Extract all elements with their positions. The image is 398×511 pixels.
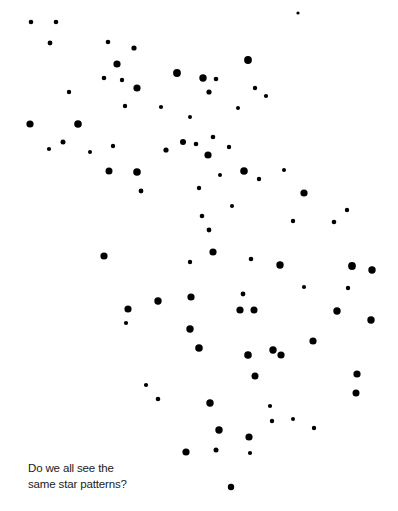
star-point xyxy=(277,351,284,358)
star-point xyxy=(131,45,136,50)
star-point xyxy=(106,168,113,175)
star-point xyxy=(312,426,316,430)
star-point xyxy=(154,297,161,304)
star-point xyxy=(214,448,219,453)
star-point xyxy=(270,419,274,423)
star-point xyxy=(88,150,92,154)
star-point xyxy=(215,426,222,433)
star-point xyxy=(211,135,216,140)
star-point xyxy=(173,69,181,77)
star-point xyxy=(296,11,299,14)
star-point xyxy=(333,307,340,314)
star-point xyxy=(124,305,131,312)
star-point xyxy=(367,316,374,323)
star-point xyxy=(269,346,276,353)
star-point xyxy=(291,417,295,421)
star-point xyxy=(47,147,51,151)
star-point xyxy=(206,399,213,406)
star-point xyxy=(353,390,360,397)
star-point xyxy=(244,351,252,359)
star-point xyxy=(251,307,258,314)
star-point xyxy=(113,60,120,67)
star-point xyxy=(276,261,283,268)
star-point xyxy=(187,293,194,300)
star-point xyxy=(102,76,107,81)
star-point xyxy=(120,78,124,82)
star-point xyxy=(204,151,211,158)
star-point xyxy=(248,451,252,455)
star-point xyxy=(156,397,161,402)
star-point xyxy=(253,86,257,90)
figure-caption: Do we all see the same star patterns? xyxy=(28,461,208,492)
star-point xyxy=(200,214,205,219)
star-point xyxy=(346,286,350,290)
star-point xyxy=(163,147,168,152)
star-point xyxy=(54,20,59,25)
star-point xyxy=(300,189,307,196)
star-point xyxy=(302,285,306,289)
star-point xyxy=(26,120,33,127)
star-point xyxy=(268,404,272,408)
star-point xyxy=(67,90,71,94)
star-point xyxy=(139,189,144,194)
star-point xyxy=(197,186,201,190)
star-point xyxy=(180,139,186,145)
star-point xyxy=(182,448,189,455)
star-point xyxy=(241,292,246,297)
star-point xyxy=(124,321,128,325)
star-point xyxy=(214,77,219,82)
star-point xyxy=(309,337,316,344)
star-point xyxy=(194,142,199,147)
star-point xyxy=(207,228,212,233)
star-point xyxy=(48,41,53,46)
star-point xyxy=(257,177,261,181)
star-point xyxy=(195,344,203,352)
star-point xyxy=(228,484,234,490)
star-point xyxy=(240,167,248,175)
star-point xyxy=(159,105,163,109)
star-point xyxy=(123,104,127,108)
star-point xyxy=(144,383,148,387)
star-point xyxy=(244,56,252,64)
star-point xyxy=(332,220,337,225)
star-point xyxy=(227,145,231,149)
star-point xyxy=(188,115,192,119)
star-point xyxy=(264,94,268,98)
star-point xyxy=(230,204,234,208)
star-point xyxy=(218,173,222,177)
star-point xyxy=(252,373,259,380)
star-point xyxy=(249,257,254,262)
star-point xyxy=(74,120,82,128)
star-point xyxy=(368,266,375,273)
star-point xyxy=(209,248,216,255)
star-point xyxy=(186,325,193,332)
star-point xyxy=(133,168,141,176)
star-point xyxy=(199,74,206,81)
star-point xyxy=(29,20,34,25)
star-point xyxy=(348,262,356,270)
star-point xyxy=(61,140,66,145)
star-point xyxy=(106,40,111,45)
star-pattern-figure: Do we all see the same star patterns? xyxy=(0,0,398,511)
star-point xyxy=(291,219,295,223)
star-point xyxy=(353,370,360,377)
star-point xyxy=(345,208,349,212)
starfield-scatter-plot xyxy=(0,0,398,511)
star-point xyxy=(282,168,286,172)
star-point xyxy=(245,433,252,440)
star-point xyxy=(133,84,140,91)
star-point xyxy=(188,260,192,264)
star-point xyxy=(236,306,243,313)
star-point xyxy=(111,144,115,148)
star-point xyxy=(100,252,107,259)
star-point xyxy=(236,106,240,110)
star-point xyxy=(206,89,211,94)
